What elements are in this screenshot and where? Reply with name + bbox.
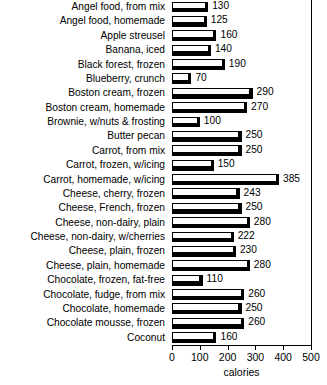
bar <box>172 289 244 297</box>
x-axis-tick-labels: 0100200300400500 <box>0 351 327 366</box>
bar-value-label: 270 <box>251 100 268 114</box>
bar-shadow <box>172 38 216 41</box>
x-tick-mark <box>283 346 284 350</box>
bar-shadow <box>172 340 216 343</box>
bar-value-label: 160 <box>220 28 237 42</box>
bar <box>172 102 247 110</box>
bar-shadow <box>172 311 242 314</box>
bar-value-label: 70 <box>195 71 206 85</box>
bar <box>172 246 236 254</box>
category-label: Apple streusel <box>100 29 165 43</box>
bar-value-label: 250 <box>246 200 263 214</box>
category-label: Chocolate mousse, frozen <box>47 316 165 330</box>
bar <box>172 16 207 24</box>
bar-end-cap <box>211 160 214 168</box>
category-label: Cheese, non-dairy, plain <box>55 216 165 230</box>
bar <box>172 260 250 268</box>
bar-end-cap <box>222 59 225 67</box>
bar <box>172 160 214 168</box>
bar <box>172 88 253 96</box>
bar-shadow <box>172 182 279 185</box>
bar-shadow <box>172 95 253 98</box>
bar-shadow <box>172 225 250 228</box>
bar-end-cap <box>188 73 191 81</box>
bar-value-label: 110 <box>207 272 223 286</box>
bar-end-cap <box>231 232 234 240</box>
bar-shadow <box>172 167 214 170</box>
category-label: Cheese, plain, homemade <box>46 259 165 273</box>
bar <box>172 45 211 53</box>
bar-end-cap <box>241 289 244 297</box>
category-label: Chocolate, fudge, from mix <box>43 288 165 302</box>
x-tick-label: 200 <box>219 351 237 364</box>
category-label: Banana, iced <box>106 43 165 57</box>
bar <box>172 2 208 10</box>
bar-shadow <box>172 268 250 271</box>
category-label: Boston cream, homemade <box>46 101 165 115</box>
bar <box>172 303 242 311</box>
bar-value-label: 130 <box>212 0 229 13</box>
bar-shadow <box>172 297 244 300</box>
x-tick-label: 100 <box>191 351 209 364</box>
bar-shadow <box>172 124 200 127</box>
bar-end-cap <box>199 275 202 283</box>
bar-end-cap <box>276 174 279 182</box>
plot-area: 1301251601401907029027010025025015038524… <box>172 0 312 346</box>
x-tick-label: 0 <box>169 351 175 364</box>
bar-shadow <box>172 239 234 242</box>
category-label: Chocolate, homemade <box>62 302 165 316</box>
bar-value-label: 100 <box>204 114 221 128</box>
bar-end-cap <box>197 117 200 125</box>
category-label: Chocolate, frozen, fat-free <box>47 273 165 287</box>
bar-end-cap <box>241 318 244 326</box>
bar <box>172 275 203 283</box>
category-axis-labels: Angel food, from mixAngel food, homemade… <box>0 0 168 345</box>
x-tick-label: 400 <box>274 351 292 364</box>
bar-end-cap <box>244 102 247 110</box>
x-tick-mark <box>311 346 312 350</box>
bar-end-cap <box>247 260 250 268</box>
bar-value-label: 280 <box>254 215 271 229</box>
category-label: Coconut <box>127 331 165 345</box>
category-label: Cheese, non-dairy, w/cherries <box>30 230 165 244</box>
category-label: Cheese, cherry, frozen <box>63 187 165 201</box>
bar-value-label: 260 <box>248 287 265 301</box>
bar-value-label: 385 <box>283 172 300 186</box>
category-label: Carrot, frozen, w/icing <box>66 158 165 172</box>
bar-value-label: 250 <box>246 128 263 142</box>
bar-value-label: 250 <box>246 301 263 315</box>
x-axis-title: calories <box>172 366 311 378</box>
bar-end-cap <box>247 217 250 225</box>
bar <box>172 30 216 38</box>
bar <box>172 332 216 340</box>
bar-value-label: 125 <box>211 13 228 27</box>
bar-shadow <box>172 110 247 113</box>
calorie-bar-chart: Angel food, from mixAngel food, homemade… <box>0 0 327 385</box>
bar-value-label: 160 <box>220 330 237 344</box>
category-label: Black forest, frozen <box>78 58 165 72</box>
bar-end-cap <box>238 145 241 153</box>
bar-end-cap <box>213 30 216 38</box>
bar <box>172 203 242 211</box>
bar-shadow <box>172 67 225 70</box>
bar-shadow <box>172 81 191 84</box>
bar-end-cap <box>249 88 252 96</box>
x-tick-mark <box>228 346 229 350</box>
bar-shadow <box>172 325 244 328</box>
category-label: Cheese, plain, frozen <box>69 244 165 258</box>
x-tick-mark <box>200 346 201 350</box>
bar <box>172 188 240 196</box>
bar-value-label: 140 <box>215 42 232 56</box>
bar <box>172 59 225 67</box>
bar-shadow <box>172 52 211 55</box>
bar-shadow <box>172 282 203 285</box>
bar-end-cap <box>238 131 241 139</box>
bar-end-cap <box>213 332 216 340</box>
bar-value-label: 243 <box>244 186 261 200</box>
bar-value-label: 260 <box>248 315 265 329</box>
category-label: Angel food, from mix <box>72 0 165 14</box>
category-label: Angel food, homemade <box>60 14 165 28</box>
bar-shadow <box>172 253 236 256</box>
bar-shadow <box>172 138 242 141</box>
x-tick-mark <box>172 346 173 350</box>
